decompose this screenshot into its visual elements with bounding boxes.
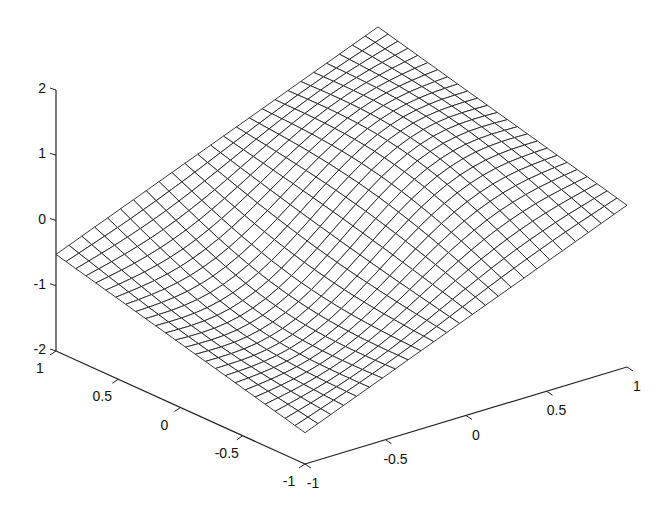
y-tick-label: -1 — [283, 473, 296, 489]
x-tick-label: 0 — [472, 427, 480, 443]
z-tick-label: 2 — [38, 80, 46, 96]
y-tick-label: -0.5 — [215, 445, 239, 461]
surface-plot: -1-0.500.51-1-0.500.51-2-1012 — [0, 0, 669, 510]
z-tick-label: 0 — [38, 211, 46, 227]
x-tick-label: -0.5 — [383, 451, 407, 467]
y-tick-label: 0.5 — [93, 388, 113, 404]
z-tick-label: 1 — [38, 145, 46, 161]
y-tick-label: 1 — [36, 360, 44, 376]
z-tick-label: -1 — [34, 276, 47, 292]
x-tick-label: -1 — [307, 475, 320, 491]
x-tick-label: 1 — [633, 378, 641, 394]
y-tick-label: 0 — [161, 417, 169, 433]
surface-mesh — [56, 27, 627, 433]
x-tick-label: 0.5 — [547, 402, 567, 418]
z-tick-label: -2 — [34, 341, 47, 357]
